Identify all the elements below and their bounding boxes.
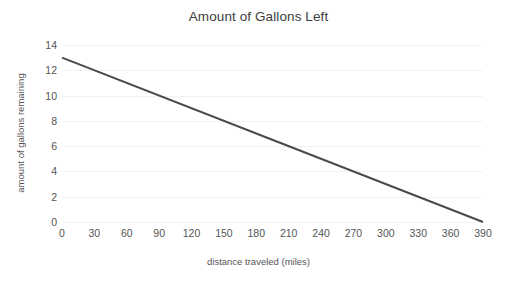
x-tick-label: 60: [121, 227, 133, 239]
x-tick-label: 120: [183, 227, 201, 239]
x-tick-label: 390: [474, 227, 492, 239]
x-tick-label: 30: [89, 227, 101, 239]
x-tick-label: 150: [215, 227, 233, 239]
x-axis-title: distance traveled (miles): [0, 256, 517, 267]
y-tick-label: 14: [0, 39, 57, 51]
y-tick-label: 8: [0, 115, 57, 127]
plot-area: [62, 45, 483, 222]
x-tick-label: 300: [377, 227, 395, 239]
y-tick-label: 6: [0, 140, 57, 152]
y-axis-title: amount of gallons remaining: [15, 73, 26, 192]
x-tick-label: 240: [312, 227, 330, 239]
x-tick-label: 270: [345, 227, 363, 239]
series-layer: [62, 45, 483, 222]
y-tick-label: 10: [0, 90, 57, 102]
y-tick-label: 4: [0, 165, 57, 177]
chart-title: Amount of Gallons Left: [0, 9, 517, 24]
y-tick-label: 12: [0, 64, 57, 76]
line-chart: Amount of Gallons Left 02468101214 amoun…: [0, 0, 517, 283]
x-tick-label: 180: [248, 227, 266, 239]
series-line: [62, 58, 483, 222]
gridline: [62, 222, 483, 223]
x-axis-tick-labels: 0306090120150180210240270300330360390: [0, 227, 517, 241]
x-tick-label: 360: [442, 227, 460, 239]
x-tick-label: 90: [153, 227, 165, 239]
x-tick-label: 330: [409, 227, 427, 239]
x-tick-label: 210: [280, 227, 298, 239]
x-tick-label: 0: [59, 227, 65, 239]
y-tick-label: 2: [0, 191, 57, 203]
